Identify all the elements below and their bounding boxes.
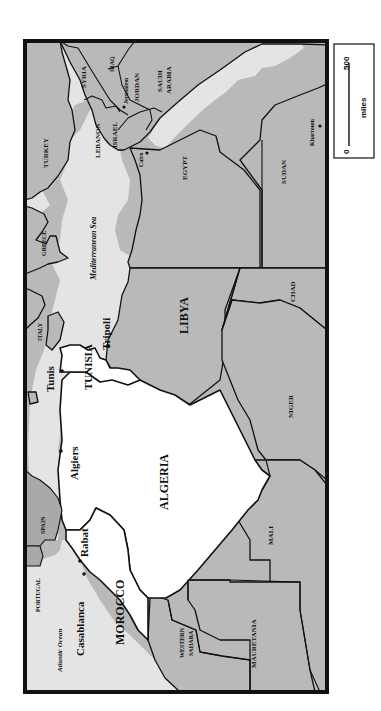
map: TURKEY SYRIA IRAQ LEBANON ISRAEL Jerusal… <box>0 0 381 711</box>
label-israel: ISRAEL <box>111 122 119 148</box>
label-algeria: ALGERIA <box>157 454 171 510</box>
label-jerusalem: Jerusalem <box>123 78 129 104</box>
sardinia <box>28 392 38 404</box>
city-dot-rabat <box>78 559 82 563</box>
label-saudi: SAUDI <box>156 70 164 92</box>
scale-end: 500 <box>342 56 351 70</box>
label-libya: LIBYA <box>177 297 191 334</box>
label-tunisia: TUNISIA <box>82 344 94 390</box>
label-italy: ITALY <box>37 322 43 341</box>
scale-unit: miles <box>359 97 368 118</box>
label-mali: MALI <box>267 526 275 545</box>
label-niger: NIGER <box>287 394 295 418</box>
label-sahara: SAHARA <box>188 630 194 656</box>
label-mauretania: MAURETANIA <box>250 620 258 668</box>
city-dot-khartoum <box>318 124 321 127</box>
label-chad: CHAD <box>289 281 297 302</box>
label-jordan: JORDAN <box>133 73 141 102</box>
label-morocco: MOROCCO <box>113 580 127 645</box>
label-algiers: Algiers <box>68 446 80 480</box>
label-casablanca: Casablanca <box>74 601 86 656</box>
label-khartoum: Khartoum <box>309 119 315 146</box>
label-arabia: ARABIA <box>165 66 173 94</box>
label-greece: GREECE <box>41 231 47 256</box>
city-dot-cairo <box>145 151 148 154</box>
label-portugal: PORTUGAL <box>35 578 41 612</box>
scale-bar: 0 500 miles <box>334 44 374 158</box>
label-spain: SPAIN <box>40 516 46 534</box>
label-western: WESTERN <box>179 627 185 658</box>
label-syria: SYRIA <box>80 66 88 88</box>
city-dot-tunis <box>60 369 64 373</box>
label-cairo: Cairo <box>138 152 144 167</box>
portugal <box>25 546 43 566</box>
scale-box <box>334 44 374 158</box>
label-sudan: SUDAN <box>280 160 288 184</box>
city-dot-jerusalem <box>122 105 125 108</box>
city-dot-tripoli <box>106 344 110 348</box>
label-atlantic: Atlantic Ocean <box>56 629 64 673</box>
city-dot-casablanca <box>82 572 86 576</box>
label-tripoli: Tripoli <box>100 318 112 350</box>
label-tunis: Tunis <box>44 365 56 392</box>
label-iraq: IRAQ <box>109 56 115 72</box>
label-lebanon: LEBANON <box>94 123 102 158</box>
label-egypt: EGYPT <box>181 156 189 180</box>
label-rabat: Rabat <box>78 528 90 557</box>
scale-start: 0 <box>342 149 351 154</box>
label-turkey: TURKEY <box>42 138 50 168</box>
city-dot-algiers <box>59 449 63 453</box>
label-mediterranean: Mediterranean Sea <box>89 217 98 281</box>
